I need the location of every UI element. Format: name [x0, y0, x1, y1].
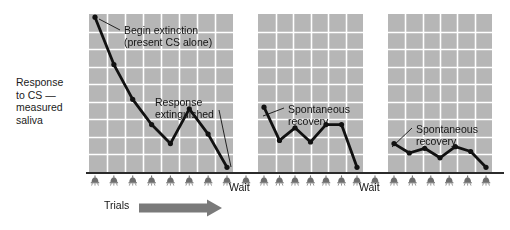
extinction-spontaneous-recovery-figure: Response to CS — measured saliva Begin e…	[0, 0, 510, 230]
bell-icon	[91, 175, 99, 185]
wait-label-second: Wait	[359, 181, 380, 193]
bell-icon	[408, 175, 416, 185]
bell-icon	[204, 175, 212, 185]
bell-icon	[129, 175, 137, 185]
plot-panel-spontaneous-recovery-2	[388, 14, 492, 172]
bell-icon	[185, 175, 193, 185]
bell-icon	[275, 175, 283, 185]
bell-icon	[306, 175, 314, 185]
bell-icon	[445, 175, 453, 185]
annotation-spontaneous-recovery-1: Spontaneous recovery	[288, 103, 350, 128]
trials-axis-label: Trials	[104, 199, 129, 211]
bell-icon	[337, 175, 345, 185]
bell-icon	[482, 175, 490, 185]
bell-icon	[427, 175, 435, 185]
bell-icon	[390, 175, 398, 185]
bell-icon	[463, 175, 471, 185]
annotation-response-extinguished: Response extinguished	[155, 96, 214, 121]
grid-lines	[388, 14, 492, 172]
bell-icon	[166, 175, 174, 185]
grid-lines	[258, 14, 363, 172]
bell-icon	[322, 175, 330, 185]
plot-panel-spontaneous-recovery-1	[258, 14, 363, 172]
annotation-spontaneous-recovery-2: Spontaneous recovery	[416, 123, 478, 148]
annotation-begin-extinction: Begin extinction (present CS alone)	[124, 24, 212, 49]
bell-icon	[110, 175, 118, 185]
bell-icon	[291, 175, 299, 185]
wait-label-first: Wait	[229, 181, 250, 193]
bell-icon	[260, 175, 268, 185]
trials-direction-arrow	[139, 200, 222, 217]
bell-icon	[147, 175, 155, 185]
y-axis-label: Response to CS — measured saliva	[16, 76, 86, 126]
